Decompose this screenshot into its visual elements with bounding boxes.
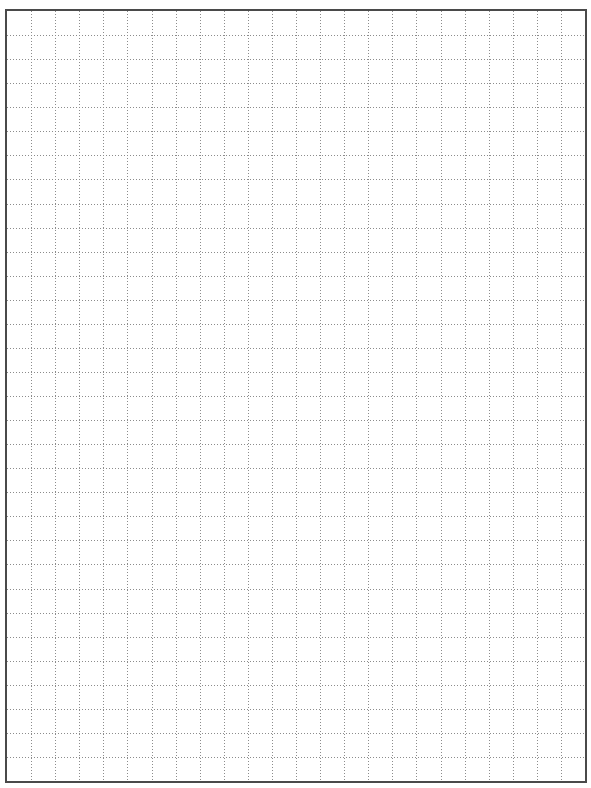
grid-border [5,9,587,783]
dotted-grid [7,11,585,781]
graph-paper-page [0,0,591,788]
